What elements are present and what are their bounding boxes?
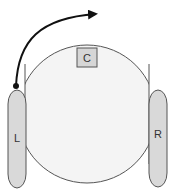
left-wheel: L — [8, 90, 26, 188]
left-wheel-label: L — [14, 132, 20, 144]
right-wheel: R — [149, 90, 167, 187]
center-component: C — [77, 48, 97, 67]
center-component-label: C — [83, 52, 91, 64]
robot-diagram: C L R — [0, 0, 174, 191]
right-wheel-label: R — [154, 128, 162, 140]
pivot-dot — [13, 83, 19, 89]
